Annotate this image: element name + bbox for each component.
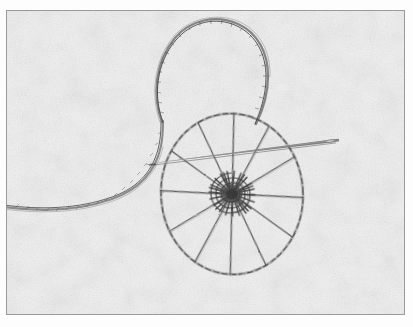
print-grain-overlay bbox=[6, 10, 405, 315]
figure-root: Woven wheel (spider web) embroidery stit… bbox=[0, 0, 413, 327]
embroidery-illustration bbox=[0, 0, 413, 327]
